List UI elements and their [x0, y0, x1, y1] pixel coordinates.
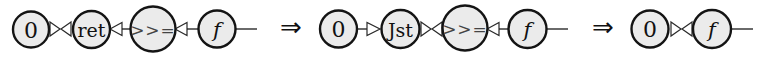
port-connector — [175, 23, 199, 36]
node-label: >>= — [130, 20, 176, 40]
bowtie-connector — [50, 22, 71, 36]
node-label: ret — [78, 19, 106, 41]
reduction-diagram: 0 ret >>= f ⇒ — [0, 0, 767, 58]
port-connector — [357, 23, 380, 36]
node-label: 0 — [332, 17, 346, 42]
reduces-to-arrow-icon: ⇒ — [592, 12, 614, 42]
stage-2: 0 Jst >>= f — [320, 6, 568, 51]
stage-1: 0 ret >>= f — [13, 7, 257, 52]
node-bind: >>= — [130, 7, 176, 52]
node-ret: ret — [73, 11, 110, 48]
port-connector — [110, 23, 132, 36]
port-connector — [487, 23, 509, 36]
node-label: 0 — [24, 18, 38, 43]
node-zero: 0 — [632, 11, 669, 48]
node-label: Jst — [386, 19, 413, 41]
node-f: f — [693, 10, 731, 48]
node-jst: Jst — [382, 10, 420, 48]
bowtie-connector — [671, 22, 692, 36]
node-f: f — [509, 10, 547, 48]
node-zero: 0 — [320, 11, 357, 48]
bowtie-connector — [421, 22, 442, 36]
node-bind: >>= — [442, 6, 488, 51]
node-label: 0 — [643, 17, 657, 42]
node-label: >>= — [442, 19, 488, 39]
reduces-to-arrow-icon: ⇒ — [280, 12, 302, 42]
stage-3: 0 f — [632, 10, 754, 48]
node-zero: 0 — [13, 12, 49, 48]
node-f: f — [199, 11, 236, 48]
